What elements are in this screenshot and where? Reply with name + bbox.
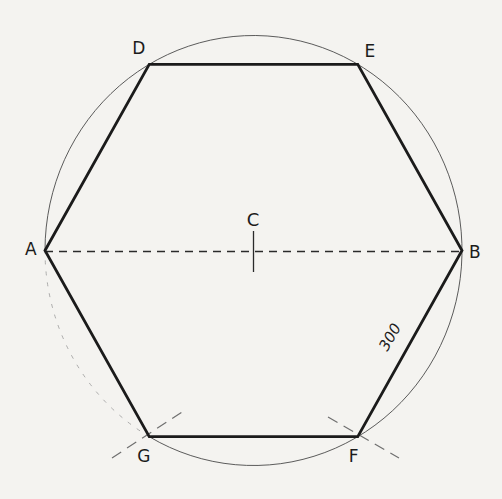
center-label-c: C [247, 209, 260, 230]
vertex-label-d: D [132, 38, 146, 58]
vertex-label-f: F [349, 446, 359, 466]
scanned-figure-page: ADEBFGC300 [0, 0, 502, 499]
dimension-label-300: 300 [375, 320, 405, 354]
vertex-label-g: G [137, 446, 151, 466]
vertex-label-e: E [364, 41, 375, 61]
hexagon-construction-diagram: ADEBFGC300 [0, 0, 502, 499]
vertex-label-b: B [469, 242, 481, 262]
vertex-label-a: A [25, 239, 37, 259]
